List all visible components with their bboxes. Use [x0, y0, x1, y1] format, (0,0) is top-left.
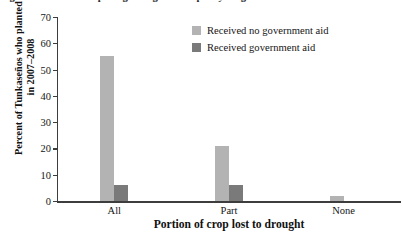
legend-label: Received government aid — [207, 42, 315, 53]
y-axis-tick-mark — [53, 17, 57, 18]
y-axis-tick-mark — [53, 175, 57, 176]
y-axis-tick-label: 40 — [41, 90, 52, 101]
bar — [100, 56, 114, 201]
y-axis-tick-label: 60 — [41, 38, 52, 49]
chart-figure: Figure 5. Effects of a pro-ag drought re… — [0, 0, 403, 238]
x-axis-title: Portion of crop lost to drought — [57, 218, 401, 231]
bar — [229, 185, 243, 201]
y-axis-tick-label: 50 — [41, 64, 52, 75]
legend-label: Received no government aid — [207, 25, 329, 36]
y-axis-tick-label: 10 — [41, 169, 52, 180]
legend-item: Received government aid — [192, 40, 329, 55]
y-axis-tick-mark — [53, 148, 57, 149]
y-axis-tick-mark — [53, 96, 57, 97]
y-axis-tick-label: 30 — [41, 117, 52, 128]
legend-item: Received no government aid — [192, 23, 329, 38]
x-axis-category-label: None — [332, 205, 355, 216]
y-axis-tick-mark — [53, 122, 57, 123]
legend-swatch-icon — [192, 43, 201, 52]
y-axis-tick-mark — [53, 201, 57, 202]
bar — [330, 196, 344, 201]
legend-swatch-icon — [192, 26, 201, 35]
y-axis-tick-label: 70 — [41, 12, 52, 23]
chart-legend: Received no government aidReceived gover… — [192, 23, 329, 57]
x-axis-category-label: All — [108, 205, 121, 216]
bar — [215, 146, 229, 201]
y-axis-tick-label: 20 — [41, 143, 52, 154]
bar — [114, 185, 128, 201]
figure-caption: Figure 5. Effects of a pro-ag drought re… — [0, 0, 403, 4]
y-axis-line — [57, 17, 58, 201]
y-axis-tick-mark — [53, 70, 57, 71]
y-axis-tick-label: 0 — [46, 196, 51, 207]
x-axis-line — [57, 201, 401, 203]
y-axis-title: Percent of Tunkaseños who planted crop i… — [13, 0, 43, 157]
x-axis-category-label: Part — [221, 205, 238, 216]
y-axis-tick-mark — [53, 43, 57, 44]
